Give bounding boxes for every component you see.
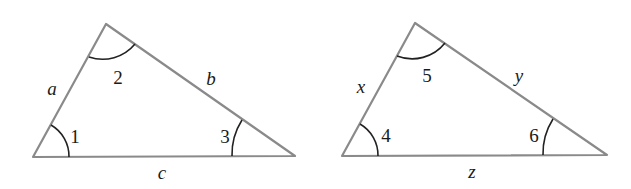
angle-2-arc xyxy=(89,44,135,59)
side-label-b: b xyxy=(206,69,216,88)
angle-6-arc xyxy=(543,119,553,155)
side-label-c: c xyxy=(158,163,166,182)
angle-label-1: 1 xyxy=(70,127,80,146)
side-label-y: y xyxy=(515,66,523,85)
angle-label-5: 5 xyxy=(422,66,432,85)
angle-label-6: 6 xyxy=(529,126,539,145)
angle-5-arc xyxy=(397,43,445,59)
side-label-z: z xyxy=(468,162,475,181)
angle-label-4: 4 xyxy=(381,126,391,145)
angle-label-2: 2 xyxy=(113,68,123,87)
angle-label-3: 3 xyxy=(220,127,230,146)
side-label-x: x xyxy=(357,77,365,96)
triangles-diagram xyxy=(0,0,631,189)
side-label-a: a xyxy=(47,79,57,98)
angle-4-arc xyxy=(360,124,378,156)
angle-1-arc xyxy=(51,125,69,157)
angle-3-arc xyxy=(232,120,242,156)
